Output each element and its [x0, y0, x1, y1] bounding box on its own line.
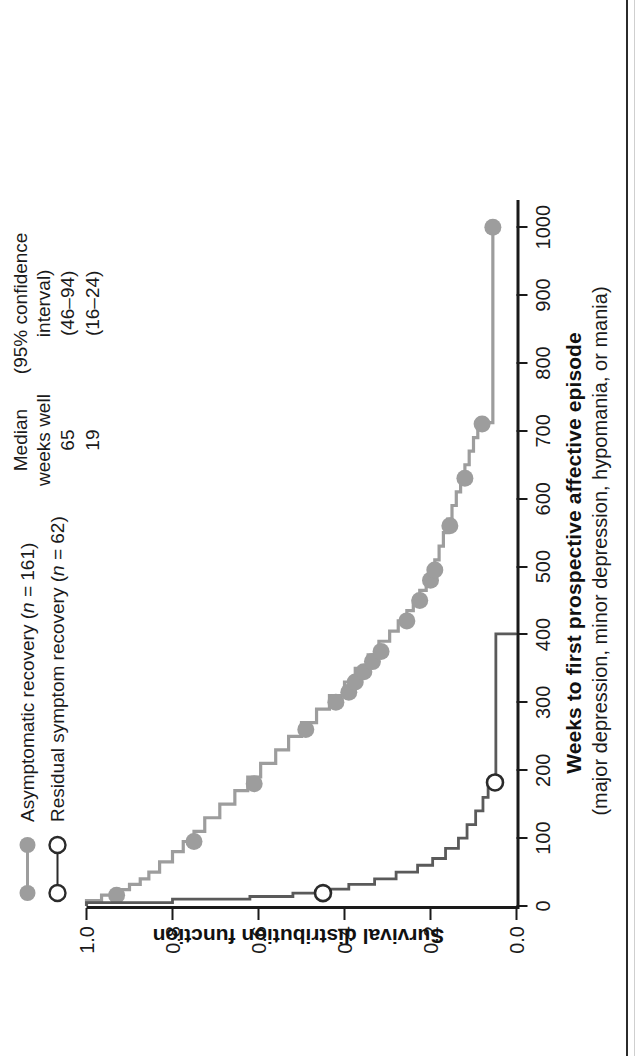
legend-label-residual-pre: Residual symptom recovery (: [46, 576, 67, 822]
stats-header-median: Median weeks well: [8, 384, 54, 496]
censor-marker: [108, 887, 125, 904]
legend-item-residual: Residual symptom recovery (n = 62): [42, 516, 72, 906]
chart-legend: Asymptomatic recovery (n = 161) Residual…: [12, 516, 72, 906]
x-tick-label: 200: [531, 740, 553, 800]
stats-header-row: Median weeks well (95% confidence interv…: [8, 223, 54, 496]
y-tick: [85, 908, 87, 920]
x-tick-label: 400: [531, 604, 553, 664]
x-tick: [516, 701, 527, 703]
x-tick: [516, 566, 527, 568]
x-tick-label: 100: [531, 808, 553, 868]
x-tick: [516, 226, 527, 228]
stats-header-ci-line1: (95% confidence: [8, 233, 31, 375]
stats-header-ci: (95% confidence interval): [8, 223, 54, 385]
legend-label-asymptomatic: Asymptomatic recovery (n = 161): [16, 543, 38, 822]
legend-label-residual: Residual symptom recovery (n = 62): [46, 516, 68, 822]
series-line-1: [86, 634, 516, 906]
stats-row-asymptomatic: 65 (46–94): [54, 223, 79, 496]
x-axis-title: Weeks to first prospective affective epi…: [561, 200, 585, 906]
figure: Asymptomatic recovery (n = 161) Residual…: [0, 0, 643, 1056]
stats-header-ci-line2: interval): [31, 233, 54, 375]
legend-label-asymptomatic-pre: Asymptomatic recovery (: [16, 613, 37, 822]
legend-key-filled-circle-icon: [14, 832, 40, 906]
x-tick-label: 300: [531, 672, 553, 732]
censor-marker: [185, 833, 202, 850]
stats-median-asymptomatic: 65: [54, 384, 79, 496]
legend-label-asymptomatic-post: = 161): [16, 543, 37, 603]
x-axis-line: [516, 200, 519, 906]
x-tick: [516, 294, 527, 296]
y-tick: [343, 908, 345, 920]
legend-item-asymptomatic: Asymptomatic recovery (n = 161): [12, 516, 42, 906]
x-tick: [516, 905, 527, 907]
y-axis-line: [86, 906, 519, 909]
x-tick-label: 1000: [531, 197, 553, 257]
x-axis-subtitle: (major depression, minor depression, hyp…: [588, 166, 611, 936]
figure-page: Asymptomatic recovery (n = 161) Residual…: [0, 0, 643, 1056]
y-axis-title: Survival distribution function: [18, 924, 578, 948]
legend-label-asymptomatic-n: n: [16, 602, 37, 613]
stats-header-median-line1: Median: [8, 394, 31, 486]
x-tick: [516, 430, 527, 432]
rotated-figure-container: Asymptomatic recovery (n = 161) Residual…: [0, 0, 643, 1056]
y-tick: [257, 908, 259, 920]
x-tick-label: 900: [531, 265, 553, 325]
x-tick-label: 600: [531, 469, 553, 529]
x-tick: [516, 769, 527, 771]
censor-marker: [473, 416, 490, 433]
censor-marker: [456, 470, 473, 487]
stats-header-median-line2: weeks well: [31, 394, 54, 486]
plot-area: [86, 200, 516, 906]
y-tick: [171, 908, 173, 920]
x-tick-label: 500: [531, 537, 553, 597]
censor-marker: [487, 774, 503, 790]
legend-label-residual-post: = 62): [46, 516, 67, 565]
y-tick: [515, 908, 517, 920]
x-tick: [516, 837, 527, 839]
legend-key-open-circle-icon: [44, 832, 70, 906]
censor-marker: [398, 612, 415, 629]
x-tick-label: 800: [531, 333, 553, 393]
censor-marker: [484, 219, 501, 236]
survival-curves: [86, 200, 516, 906]
y-tick: [429, 908, 431, 920]
censor-marker: [315, 885, 331, 901]
stats-ci-asymptomatic: (46–94): [54, 223, 79, 385]
legend-label-residual-n: n: [46, 565, 67, 576]
x-tick-label: 700: [531, 401, 553, 461]
x-tick: [516, 498, 527, 500]
x-tick: [516, 362, 527, 364]
x-tick: [516, 633, 527, 635]
